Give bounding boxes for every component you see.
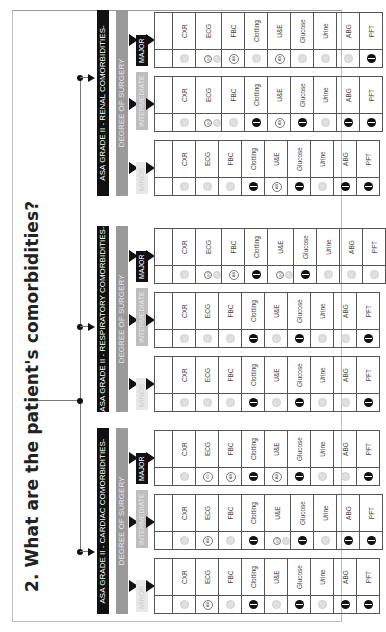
not-indicated-icon — [318, 334, 327, 343]
test-label: U&E — [265, 293, 288, 330]
table-row: Glucose — [288, 431, 311, 486]
indication-cell — [196, 330, 219, 348]
blank-cell — [155, 266, 173, 284]
conditional-icon: 60 — [273, 537, 290, 545]
table-row: Clotting — [242, 293, 265, 348]
blank-cell — [155, 50, 173, 68]
table-row: Glucose — [291, 13, 314, 68]
table-row: CXR — [173, 141, 196, 196]
indication-cell — [337, 50, 360, 68]
indication-cell — [173, 596, 196, 614]
test-label: PFT — [363, 229, 386, 266]
table-row: Urine — [311, 293, 334, 348]
table-row: Glucose — [288, 357, 311, 412]
not-indicated-icon — [324, 270, 333, 279]
indicated-icon — [367, 54, 376, 63]
table-row: PFT — [357, 141, 380, 196]
conditional-icon: 60 — [204, 271, 221, 279]
test-label: ECG — [196, 357, 219, 394]
test-label: Glucose — [288, 431, 311, 468]
test-label: FBC — [222, 77, 245, 114]
test-label: ECG — [196, 13, 222, 50]
indication-cell — [357, 330, 380, 348]
table-row: PFT — [360, 495, 383, 550]
age-based-icon: AB — [272, 182, 282, 192]
test-label: ABG — [334, 141, 357, 178]
not-indicated-icon — [180, 334, 189, 343]
blank-cell — [155, 293, 173, 330]
indication-cell — [173, 266, 196, 284]
blank-cell — [155, 77, 173, 114]
test-label: CXR — [173, 229, 196, 266]
table-row: AB U&E — [268, 13, 291, 68]
not-indicated-icon — [344, 54, 353, 63]
test-label: PFT — [357, 559, 380, 596]
indication-cell — [334, 178, 357, 196]
table-row: PFT — [363, 229, 386, 284]
test-label: Glucose — [291, 77, 314, 114]
test-label: Urine — [311, 431, 334, 468]
section-header: ASA GRADE II - CARDIAC COMORBIDITIES- — [97, 428, 109, 614]
indicated-icon — [295, 334, 304, 343]
table-row: FBC — [219, 495, 242, 550]
blank-cell — [155, 495, 173, 532]
indication-cell — [288, 178, 311, 196]
investigations-table: CXR AB ECG FBC Clotting 60 U&E Glucose U… — [154, 494, 383, 550]
test-label: U&E — [265, 559, 288, 596]
table-row: ABG — [334, 293, 357, 348]
table-row: FBC — [219, 141, 242, 196]
indication-cell — [242, 532, 265, 550]
not-indicated-icon — [180, 54, 189, 63]
table-row: CXR — [173, 495, 196, 550]
not-indicated-icon — [285, 271, 293, 279]
investigations-table: CXR 60 ECG FBC Clotting AB U&E Glucose U… — [154, 76, 383, 132]
indicated-icon — [364, 600, 373, 609]
indicated-icon — [249, 600, 258, 609]
test-label: Clotting — [242, 293, 265, 330]
test-label: CXR — [173, 431, 196, 468]
test-label: ABG — [334, 357, 357, 394]
indication-cell — [288, 330, 311, 348]
age-based-icon: AB — [272, 472, 282, 482]
indication-cell: AB — [265, 468, 288, 486]
indicated-icon — [252, 118, 261, 127]
not-indicated-icon — [272, 334, 281, 343]
table-row: Urine — [317, 229, 340, 284]
branch-node-renal — [77, 75, 83, 81]
indication-cell — [291, 532, 314, 550]
indication-cell — [222, 114, 245, 132]
test-label: ABG — [334, 293, 357, 330]
test-label: ECG — [196, 229, 222, 266]
not-indicated-icon — [203, 398, 212, 407]
indication-cell — [311, 468, 334, 486]
table-row: 60 ECG — [196, 77, 222, 132]
indicated-icon — [344, 536, 353, 545]
indication-cell — [314, 532, 337, 550]
test-label: FBC — [222, 229, 245, 266]
test-label: Clotting — [242, 357, 265, 394]
indication-cell — [288, 394, 311, 412]
test-label: Clotting — [242, 559, 265, 596]
age-based-icon: AB — [203, 600, 213, 610]
test-label: ABG — [340, 229, 363, 266]
indication-cell — [314, 50, 337, 68]
test-label: Urine — [311, 141, 334, 178]
table-row: ABG — [337, 495, 360, 550]
table-row: FBC — [219, 559, 242, 614]
indicated-icon — [295, 182, 304, 191]
test-label: CXR — [173, 13, 196, 50]
table-row: AB FBC — [219, 431, 242, 486]
test-label: ECG — [196, 559, 219, 596]
indication-cell: AB — [222, 50, 245, 68]
indicated-icon — [298, 536, 307, 545]
history-based-icon: 60 — [204, 119, 212, 127]
history-based-icon: 60 — [273, 537, 281, 545]
not-indicated-icon — [213, 271, 221, 279]
indication-cell: AB — [196, 596, 219, 614]
test-label: ECG — [196, 77, 222, 114]
not-indicated-icon — [318, 398, 327, 407]
indication-cell — [334, 394, 357, 412]
table-row: PFT — [357, 293, 380, 348]
test-label: U&E — [268, 13, 291, 50]
